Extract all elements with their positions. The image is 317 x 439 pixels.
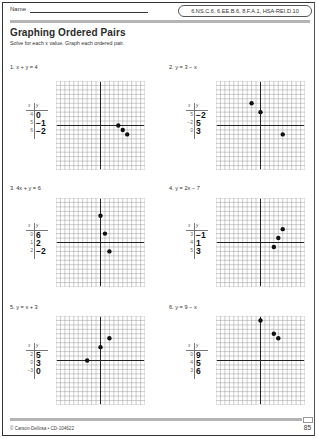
page-number: 85 (304, 424, 311, 431)
plotted-point (281, 132, 285, 136)
table-cell-x: 5 (186, 247, 193, 253)
plotted-point (98, 214, 102, 218)
problem-5-label: 5. y = x + 3 (10, 304, 38, 310)
table-cell-x: 6 (26, 127, 33, 133)
coordinate-grid (56, 316, 145, 405)
table-cell-x: 0 (26, 231, 33, 237)
name-input-line[interactable] (30, 12, 148, 13)
table-cell-x: 0 (186, 351, 193, 357)
plotted-point (276, 236, 280, 240)
plotted-point (85, 358, 89, 362)
table-header-x: x (188, 103, 190, 108)
table-header-x: x (28, 103, 30, 108)
table-divider-v (34, 223, 35, 259)
table-divider-v (194, 223, 195, 259)
table-divider-v (194, 103, 195, 139)
coordinate-grid (56, 198, 145, 287)
standards-badge: 6.NS.C.6, 6.EE.B.6, 8.F.A.1, HSA-REI.D.1… (178, 5, 312, 17)
table-cell-y: 3 (196, 247, 201, 255)
table-header-y: y (36, 223, 38, 228)
problem-1-graph[interactable] (56, 81, 145, 170)
plotted-point (98, 345, 102, 349)
table-header-x: x (188, 343, 190, 348)
table-cell-y: 0 (36, 367, 41, 375)
table-cell-x: 4 (26, 111, 33, 117)
problem-2-label: 2. y = 3 − x (169, 64, 197, 70)
table-header-x: x (28, 223, 30, 228)
table-cell-x: 4 (186, 359, 193, 365)
problem-4-label: 4. y = 2x − 7 (169, 185, 200, 191)
plotted-point (103, 231, 107, 235)
table-cell-y: −2 (36, 247, 46, 255)
plotted-point (258, 318, 262, 322)
problem-3-table: x y 0 6 1 2 2 −2 (26, 223, 48, 259)
problem-3-graph[interactable] (56, 198, 145, 287)
plotted-point (281, 227, 285, 231)
instructions: Solve for each x value. Graph each order… (10, 40, 124, 46)
plotted-point (107, 336, 111, 340)
problem-1-label: 1. x + y = 4 (10, 64, 38, 70)
page-title: Graphing Ordered Pairs (10, 27, 126, 38)
table-header-x: x (28, 343, 30, 348)
table-cell-x: 4 (186, 239, 193, 245)
problem-2-graph[interactable] (216, 81, 305, 170)
plotted-point (249, 101, 253, 105)
table-divider-v (194, 343, 195, 379)
table-cell-x: 2 (26, 247, 33, 253)
header-divider (10, 20, 310, 23)
plotted-point (276, 336, 280, 340)
plotted-point (125, 132, 129, 136)
table-cell-x: 5 (186, 111, 193, 117)
footer-divider (10, 418, 302, 421)
table-cell-x: 0 (26, 359, 33, 365)
table-divider-v (34, 103, 35, 139)
problem-6-label: 6. y = 9 − x (169, 304, 197, 310)
problem-3-label: 3. 4x + y = 6 (10, 185, 41, 191)
table-header-x: x (188, 223, 190, 228)
plotted-point (272, 332, 276, 336)
table-cell-x: 2 (26, 351, 33, 357)
problem-1-table: x y 4 0 5 −1 6 −2 (26, 103, 48, 139)
table-header-y: y (36, 103, 38, 108)
footer-box (303, 417, 313, 423)
problem-6-graph[interactable] (216, 316, 305, 405)
problem-4-table: x y 3 −1 4 1 5 3 (186, 223, 208, 259)
problem-5-graph[interactable] (56, 316, 145, 405)
coordinate-grid (56, 81, 145, 170)
table-cell-x: −2 (186, 119, 193, 125)
table-cell-x: −3 (26, 367, 33, 373)
plotted-point (258, 110, 262, 114)
problem-5-table: x y 2 5 0 3 −3 0 (26, 343, 48, 379)
table-cell-x: 5 (26, 119, 33, 125)
table-cell-x: 0 (186, 127, 193, 133)
table-cell-y: 6 (196, 367, 201, 375)
coordinate-grid (216, 198, 305, 287)
plotted-point (107, 249, 111, 253)
table-cell-x: 3 (186, 231, 193, 237)
copyright: © Carson-Dellosa • CD-104622 (10, 426, 74, 431)
table-cell-x: 3 (186, 367, 193, 373)
problem-2-table: x y 5 −2 −2 5 0 3 (186, 103, 208, 139)
plotted-point (121, 128, 125, 132)
table-header-y: y (196, 223, 198, 228)
coordinate-grid (216, 81, 305, 170)
name-label: Name (10, 6, 26, 12)
table-header-y: y (196, 343, 198, 348)
table-cell-y: 3 (196, 127, 201, 135)
plotted-point (272, 245, 276, 249)
table-header-y: y (196, 103, 198, 108)
table-header-y: y (36, 343, 38, 348)
problem-4-graph[interactable] (216, 198, 305, 287)
table-cell-x: 1 (26, 239, 33, 245)
table-cell-y: −2 (36, 127, 46, 135)
plotted-point (116, 123, 120, 127)
table-divider-v (34, 343, 35, 379)
coordinate-grid (216, 316, 305, 405)
problem-6-table: x y 0 9 4 5 3 6 (186, 343, 208, 379)
